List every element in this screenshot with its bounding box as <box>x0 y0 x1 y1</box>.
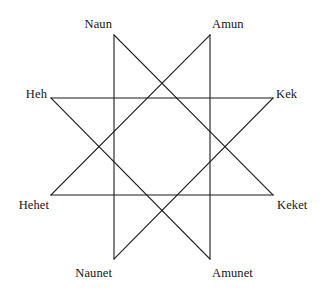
node-label-kek: Kek <box>276 88 297 101</box>
node-label-amun: Amun <box>212 18 244 31</box>
star-edge-amunet-heh <box>51 98 210 259</box>
star-edge-group <box>51 35 273 259</box>
node-label-keket: Keket <box>277 199 307 212</box>
star-edge-kek-naunet <box>114 98 273 259</box>
node-label-naunet: Naunet <box>75 267 112 280</box>
star-edge-naun-keket <box>114 35 273 195</box>
node-label-amunet: Amunet <box>212 267 253 280</box>
node-label-hehet: Hehet <box>19 199 49 212</box>
star-polygon-svg <box>0 0 324 293</box>
octagram-figure: NaunAmunKekKeketAmunetNaunetHehetHeh <box>0 0 324 293</box>
node-label-heh: Heh <box>26 88 47 101</box>
star-edge-hehet-amun <box>51 35 210 195</box>
node-label-naun: Naun <box>85 18 112 31</box>
